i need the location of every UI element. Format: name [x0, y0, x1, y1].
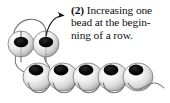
caption-line-1-text: Increasing one	[84, 4, 152, 16]
step-number: (2)	[71, 4, 84, 16]
figure-caption: (2) Increasing one bead at the begin- ni…	[71, 4, 170, 41]
bead-row	[23, 63, 153, 91]
new-bead-1	[8, 31, 34, 57]
row-bead-5	[123, 63, 153, 91]
figure-container: (2) Increasing one bead at the begin- ni…	[0, 0, 170, 103]
caption-line-3: ning of a row.	[71, 29, 170, 41]
caption-line-1: (2) Increasing one	[71, 4, 170, 16]
caption-line-2: bead at the begin-	[71, 16, 170, 28]
